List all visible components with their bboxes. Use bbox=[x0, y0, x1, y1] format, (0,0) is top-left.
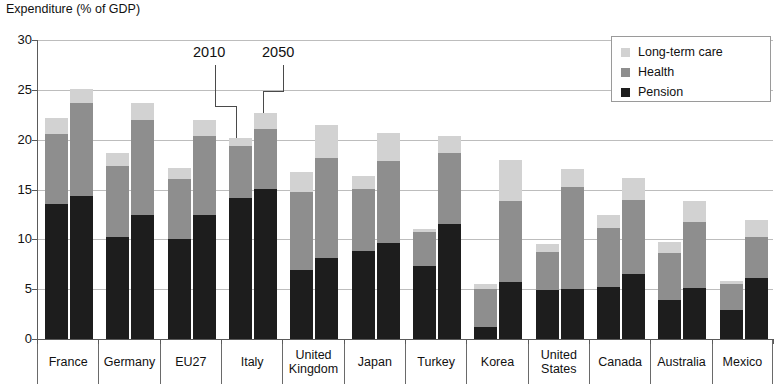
bar-segment-long-term-care bbox=[597, 215, 620, 228]
bar-united-kingdom-2010 bbox=[290, 173, 313, 339]
bar-segment-health bbox=[683, 222, 706, 288]
bar-segment-pension bbox=[254, 189, 277, 339]
x-axis-label-united-kingdom: United Kingdom bbox=[282, 340, 343, 384]
bar-group-united-kingdom bbox=[283, 40, 344, 339]
x-tick-mark bbox=[650, 339, 651, 344]
x-axis-label-germany: Germany bbox=[98, 340, 159, 384]
bar-united-states-2010 bbox=[536, 244, 559, 339]
bar-segment-pension bbox=[168, 239, 191, 339]
bar-segment-pension bbox=[377, 243, 400, 339]
bar-segment-long-term-care bbox=[561, 169, 584, 187]
x-axis-label-australia: Australia bbox=[650, 340, 711, 384]
bar-segment-health bbox=[622, 200, 645, 274]
bar-segment-health bbox=[131, 119, 154, 215]
x-axis-label-united-states: United States bbox=[528, 340, 589, 384]
bar-segment-long-term-care bbox=[106, 153, 129, 166]
bar-segment-health bbox=[499, 201, 522, 282]
bar-group-korea bbox=[467, 40, 528, 339]
bar-eu27-2050 bbox=[193, 120, 216, 339]
bar-segment-health bbox=[315, 157, 338, 258]
bar-group-italy bbox=[222, 40, 283, 339]
bar-segment-health bbox=[106, 165, 129, 237]
x-tick-mark bbox=[589, 339, 590, 344]
bar-segment-long-term-care bbox=[229, 138, 252, 146]
y-tick-label: 30 bbox=[2, 33, 32, 46]
bar-australia-2010 bbox=[658, 242, 681, 339]
bar-united-states-2050 bbox=[561, 169, 584, 339]
leader-line-2010-horizontal bbox=[215, 106, 237, 107]
bar-segment-pension bbox=[193, 215, 216, 339]
x-axis-label-mexico: Mexico bbox=[712, 340, 773, 384]
x-axis-label-japan: Japan bbox=[344, 340, 405, 384]
y-tick-label: 10 bbox=[2, 232, 32, 245]
bar-italy-2050 bbox=[254, 113, 277, 339]
bar-segment-pension bbox=[290, 270, 313, 339]
bar-segment-health bbox=[474, 289, 497, 327]
leader-line-2010-drop bbox=[236, 106, 237, 138]
bar-segment-health bbox=[352, 188, 375, 251]
bar-japan-2050 bbox=[377, 133, 400, 339]
bar-segment-health bbox=[413, 232, 436, 266]
legend-label-health: Health bbox=[638, 65, 674, 79]
bar-segment-pension bbox=[315, 258, 338, 339]
y-tick-label-wrap: 25 bbox=[0, 83, 32, 96]
bar-group-germany bbox=[99, 40, 160, 339]
bar-united-kingdom-2050 bbox=[315, 125, 338, 339]
bar-eu27-2010 bbox=[168, 168, 191, 339]
bar-canada-2050 bbox=[622, 179, 645, 339]
bar-segment-long-term-care bbox=[45, 118, 68, 134]
x-tick-mark bbox=[712, 339, 713, 344]
legend-item-health: Health bbox=[621, 62, 770, 82]
x-axis-label-turkey: Turkey bbox=[405, 340, 466, 384]
bar-segment-long-term-care bbox=[499, 160, 522, 201]
y-tick-label: 0 bbox=[2, 332, 32, 345]
bar-segment-health bbox=[597, 228, 620, 287]
bar-segment-long-term-care bbox=[413, 229, 436, 232]
bar-segment-health bbox=[438, 152, 461, 224]
bar-segment-health bbox=[290, 192, 313, 270]
x-tick-mark bbox=[221, 339, 222, 344]
bar-segment-pension bbox=[536, 290, 559, 339]
bar-segment-long-term-care bbox=[377, 133, 400, 161]
bar-segment-pension bbox=[561, 289, 584, 339]
bar-group-france bbox=[38, 40, 99, 339]
bar-segment-health bbox=[70, 102, 93, 196]
legend-swatch-long-term-care-icon bbox=[621, 48, 630, 57]
bar-segment-pension bbox=[720, 310, 743, 339]
bar-france-2050 bbox=[70, 89, 93, 339]
bar-segment-pension bbox=[683, 288, 706, 339]
bar-segment-health bbox=[45, 133, 68, 204]
y-tick-label-wrap: 15 bbox=[0, 183, 32, 196]
bar-segment-health bbox=[561, 186, 584, 289]
bar-segment-health bbox=[229, 145, 252, 198]
legend-item-long-term-care: Long-term care bbox=[621, 42, 770, 62]
y-tick-label: 15 bbox=[2, 183, 32, 196]
bar-turkey-2050 bbox=[438, 136, 461, 339]
y-tick-label-wrap: 20 bbox=[0, 133, 32, 146]
leader-line-2050-vertical bbox=[283, 65, 284, 92]
x-tick-mark bbox=[282, 339, 283, 344]
leader-line-2050-drop bbox=[263, 91, 264, 113]
bar-segment-long-term-care bbox=[193, 120, 216, 136]
chart-title: Expenditure (% of GDP) bbox=[6, 2, 140, 16]
bar-group-eu27 bbox=[161, 40, 222, 339]
bar-segment-health bbox=[168, 178, 191, 239]
bar-segment-pension bbox=[229, 198, 252, 339]
x-axis-label-korea: Korea bbox=[466, 340, 527, 384]
bar-segment-pension bbox=[658, 300, 681, 339]
bar-mexico-2010 bbox=[720, 281, 743, 339]
bar-segment-long-term-care bbox=[622, 178, 645, 200]
x-tick-mark bbox=[37, 339, 38, 344]
bar-segment-long-term-care bbox=[168, 168, 191, 179]
bar-segment-long-term-care bbox=[438, 136, 461, 153]
chart-root: Expenditure (% of GDP) 051015202530 2010… bbox=[0, 0, 775, 384]
bar-segment-long-term-care bbox=[352, 176, 375, 189]
bar-segment-pension bbox=[413, 266, 436, 339]
bar-segment-long-term-care bbox=[745, 220, 768, 237]
bar-segment-pension bbox=[622, 274, 645, 339]
bar-segment-pension bbox=[499, 282, 522, 339]
bar-segment-health bbox=[745, 237, 768, 278]
bar-segment-pension bbox=[745, 278, 768, 339]
bar-turkey-2010 bbox=[413, 229, 436, 339]
bar-segment-long-term-care bbox=[683, 201, 706, 222]
